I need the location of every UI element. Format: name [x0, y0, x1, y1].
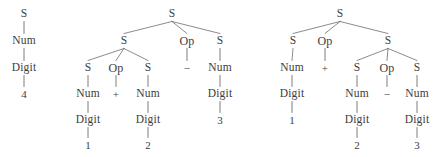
tree-node-s: S [354, 62, 361, 74]
tree-node-digit: Digit [405, 114, 430, 126]
tree-node-s: S [337, 8, 344, 20]
tree-node-digit: Digit [345, 114, 370, 126]
tree-node-num: Num [345, 88, 369, 100]
tree-node-2: 2 [354, 140, 360, 151]
tree-edge [325, 22, 340, 34]
tree-node-plus: + [322, 63, 328, 74]
parse-tree-right-assoc: SSOpSNum+SOpSDigitNum−Num1DigitDigit23 [0, 0, 439, 157]
tree-edge [293, 22, 340, 34]
tree-edge [357, 49, 388, 61]
tree-node-3: 3 [414, 140, 420, 151]
tree-edge [292, 49, 293, 61]
tree-node-num: Num [405, 88, 429, 100]
tree-node-s: S [290, 35, 297, 47]
tree-node-op: Op [379, 62, 394, 74]
tree-node-s: S [385, 35, 392, 47]
tree-node-s: S [414, 62, 421, 74]
tree-node-1: 1 [289, 115, 295, 126]
tree-edge [388, 49, 417, 61]
parse-trees-figure: SNumDigit4SSOpSSOpS−NumNum+NumDigitDigit… [0, 0, 439, 157]
tree-edge [387, 49, 388, 61]
tree-edge [340, 22, 388, 34]
tree-node-minus: − [384, 89, 390, 100]
tree-node-digit: Digit [280, 88, 305, 100]
tree-edges [0, 0, 439, 157]
tree-node-op: Op [317, 35, 332, 47]
tree-node-num: Num [280, 62, 304, 74]
